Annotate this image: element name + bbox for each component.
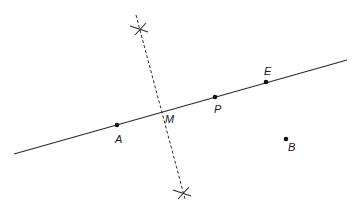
compass-arc-marks (130, 23, 191, 199)
point-e-label: E (264, 65, 272, 77)
point-p-label: P (214, 103, 222, 115)
point-m-label: M (165, 113, 175, 125)
point-a-label: A (114, 133, 122, 145)
point-p: P (213, 95, 222, 115)
point-a-dot (115, 123, 120, 128)
point-a: A (114, 123, 122, 145)
point-m: M (165, 113, 175, 125)
points-group: AMPEB (114, 65, 295, 153)
point-b-label: B (288, 141, 295, 153)
perpendicular-bisector-dashed (136, 15, 185, 199)
line-through-a-p-e (14, 60, 347, 154)
point-e-dot (264, 80, 269, 85)
geometry-diagram: AMPEB (0, 0, 364, 212)
point-p-dot (213, 95, 218, 100)
arc-mark-top-icon (130, 23, 148, 35)
point-b: B (284, 137, 296, 153)
